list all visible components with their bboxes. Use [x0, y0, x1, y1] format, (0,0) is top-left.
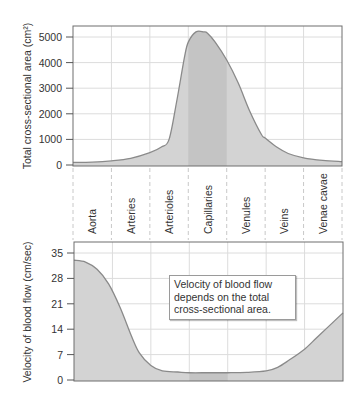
- figure: 010002000300040005000 Total cross-sectio…: [0, 0, 363, 413]
- annotation-line-1: Velocity of blood flow: [174, 278, 291, 291]
- top-chart-area: [73, 26, 342, 166]
- category-label-arteries: Arteries: [125, 198, 137, 234]
- bottom-y-tick-label: 28: [51, 272, 63, 284]
- top-chart-y-ticks: 010002000300040005000: [39, 31, 73, 171]
- top-y-tick-label: 1000: [39, 133, 63, 145]
- bottom-y-tick-label: 35: [51, 247, 63, 259]
- bottom-y-tick-label: 7: [57, 349, 63, 361]
- category-label-venules: Venules: [240, 197, 252, 234]
- bottom-y-tick-label: 14: [51, 323, 63, 335]
- category-label-aorta: Aorta: [86, 209, 98, 234]
- annotation-line-3: cross-sectional area.: [174, 303, 291, 316]
- bottom-y-tick-label: 0: [57, 374, 63, 386]
- category-label-capillaries: Capillaries: [202, 185, 214, 234]
- category-label-venae-cavae: Venae cavae: [317, 173, 329, 234]
- top-y-tick-label: 2000: [39, 108, 63, 120]
- annotation-line-2: depends on the total: [174, 291, 291, 304]
- top-highlight-capillaries: [188, 26, 226, 166]
- category-labels: AortaArteriesArteriolesCapillariesVenule…: [86, 173, 329, 234]
- top-y-tick-label: 5000: [39, 31, 63, 43]
- bottom-y-tick-label: 21: [51, 298, 63, 310]
- bottom-chart-y-axis-title: Velocity of blood flow (cm/sec): [21, 241, 33, 382]
- bottom-chart-y-ticks: 0714212835: [51, 247, 74, 386]
- category-label-arterioles: Arterioles: [163, 190, 175, 234]
- top-y-tick-label: 0: [56, 159, 62, 171]
- annotation-box: Velocity of blood flow depends on the to…: [169, 275, 296, 320]
- category-label-veins: Veins: [278, 208, 290, 234]
- top-y-tick-label: 3000: [39, 82, 63, 94]
- top-y-tick-label: 4000: [39, 57, 63, 69]
- top-chart-y-axis-title: Total cross-sectional area (cm²): [21, 23, 33, 169]
